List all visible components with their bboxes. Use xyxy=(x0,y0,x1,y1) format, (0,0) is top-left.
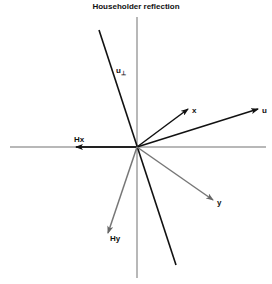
hx-label: Hx xyxy=(74,135,85,144)
hy-vector xyxy=(108,147,137,233)
u-perp-label: u⊥ xyxy=(116,66,126,76)
hy-label: Hy xyxy=(110,234,121,243)
y-vector xyxy=(137,147,213,200)
householder-diagram: u⊥ u x Hx y Hy xyxy=(0,0,272,284)
x-vector xyxy=(137,109,188,147)
x-label: x xyxy=(192,106,197,115)
u-label: u xyxy=(262,106,267,115)
y-label: y xyxy=(217,198,222,207)
u-vector xyxy=(137,109,258,147)
